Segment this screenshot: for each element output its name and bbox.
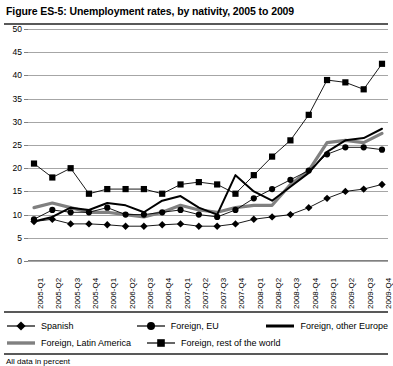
circle-marker-icon <box>361 144 367 150</box>
x-axis-tick-label: 2008-Q2 <box>275 278 283 309</box>
y-axis-tick-label: 10 <box>13 211 22 220</box>
legend-label: Foreign, rest of the world <box>181 338 281 348</box>
circle-marker-icon <box>269 186 275 192</box>
series-layer <box>28 29 388 261</box>
plot-canvas <box>28 29 388 261</box>
diamond-marker-icon <box>140 223 147 230</box>
legend-label: Spanish <box>41 321 74 331</box>
circle-marker-icon <box>214 214 220 220</box>
diamond-marker-icon <box>342 188 349 195</box>
x-axis-tick-label: 2007-Q1 <box>184 278 192 309</box>
diamond-marker-icon <box>177 220 184 227</box>
circle-marker-icon <box>379 147 385 153</box>
circle-marker-icon <box>49 207 55 213</box>
x-axis-tick-label: 2008-Q1 <box>257 278 265 309</box>
diamond-marker-icon <box>6 320 36 332</box>
diamond-marker-icon <box>232 220 239 227</box>
diamond-marker-icon <box>305 204 312 211</box>
circle-marker-icon <box>251 195 257 201</box>
y-axis-tick-label: 5 <box>17 234 22 243</box>
square-marker-icon <box>177 181 183 187</box>
circle-marker-icon <box>86 209 92 215</box>
y-axis-tick-label: 25 <box>13 141 22 150</box>
circle-marker-icon <box>104 205 110 211</box>
diamond-marker-icon <box>213 223 220 230</box>
square-marker-icon <box>104 186 110 192</box>
diamond-marker-icon <box>85 220 92 227</box>
x-axis-tick-label: 2009-Q2 <box>348 278 356 309</box>
legend-item-foreign-latin-america[interactable]: Foreign, Latin America <box>6 337 146 349</box>
y-axis-tick-label: 30 <box>13 118 22 127</box>
square-marker-icon <box>146 337 176 349</box>
legend-item-spanish[interactable]: Spanish <box>6 320 136 332</box>
circle-marker-icon <box>342 144 348 150</box>
circle-marker-icon <box>324 151 330 157</box>
x-axis: 2005-Q12005-Q22005-Q32005-Q42006-Q12006-… <box>4 261 388 311</box>
y-axis-tick-label: 50 <box>13 25 22 34</box>
square-marker-icon <box>86 191 92 197</box>
square-marker-icon <box>251 172 257 178</box>
square-marker-icon <box>306 112 312 118</box>
circle-marker-icon <box>68 209 74 215</box>
square-marker-icon <box>269 154 275 160</box>
page-title: Figure ES-5: Unemployment rates, by nati… <box>4 0 388 22</box>
legend-top-divider <box>4 311 388 313</box>
x-axis-tick-label: 2006-Q4 <box>165 278 173 309</box>
x-axis-tick-label: 2007-Q4 <box>238 278 246 309</box>
square-marker-icon <box>379 61 385 67</box>
circle-marker-icon <box>122 212 128 218</box>
legend-label: Foreign, EU <box>171 321 219 331</box>
diamond-marker-icon <box>195 223 202 230</box>
diamond-marker-icon <box>159 221 166 228</box>
series-foreign-rest-of-the-world <box>31 61 385 197</box>
legend-item-foreign-eu[interactable]: Foreign, EU <box>136 320 266 332</box>
figure-note: All data in percent <box>4 357 388 366</box>
x-axis-tick-label: 2006-Q1 <box>110 278 118 309</box>
circle-marker-icon <box>196 212 202 218</box>
y-axis-tick-label: 40 <box>13 71 22 80</box>
x-axis-tick-label: 2009-Q1 <box>330 278 338 309</box>
x-axis-tick-label: 2006-Q3 <box>147 278 155 309</box>
series-line <box>34 64 382 194</box>
square-marker-icon <box>361 86 367 92</box>
diamond-marker-icon <box>250 216 257 223</box>
x-axis-tick-label: 2006-Q2 <box>129 278 137 309</box>
title-divider <box>4 23 388 25</box>
square-marker-icon <box>159 191 165 197</box>
legend-bottom-divider <box>4 353 388 355</box>
y-axis: 05101520253035404550 <box>4 29 28 261</box>
square-marker-icon <box>68 165 74 171</box>
legend-item-foreign-rest-of-the-world[interactable]: Foreign, rest of the world <box>146 337 281 349</box>
legend-label: Foreign, other Europe <box>300 321 388 331</box>
legend-item-foreign-other-europe[interactable]: Foreign, other Europe <box>265 320 388 332</box>
square-marker-icon <box>49 174 55 180</box>
y-axis-tick-label: 35 <box>13 95 22 104</box>
x-axis-tick-label: 2008-Q3 <box>293 278 301 309</box>
x-axis-tick-label: 2005-Q3 <box>74 278 82 309</box>
square-marker-icon <box>31 160 37 166</box>
y-axis-tick-label: 15 <box>13 187 22 196</box>
x-axis-tick-label: 2009-Q4 <box>385 278 393 309</box>
series-line <box>34 133 382 217</box>
legend-label: Foreign, Latin America <box>41 338 131 348</box>
square-marker-icon <box>287 137 293 143</box>
square-marker-icon <box>232 191 238 197</box>
square-marker-icon <box>214 181 220 187</box>
x-axis-tick-label: 2007-Q3 <box>220 278 228 309</box>
square-marker-icon <box>141 186 147 192</box>
diamond-marker-icon <box>104 221 111 228</box>
x-axis-tick-label: 2005-Q4 <box>92 278 100 309</box>
legend-row: Foreign, Latin AmericaForeign, rest of t… <box>6 335 388 350</box>
diamond-marker-icon <box>287 211 294 218</box>
diamond-marker-icon <box>268 213 275 220</box>
diamond-marker-icon <box>67 220 74 227</box>
legend-row: SpanishForeign, EUForeign, other Europe <box>6 318 388 333</box>
x-axis-tick-label: 2005-Q2 <box>55 278 63 309</box>
y-axis-tick-label: 20 <box>13 164 22 173</box>
circle-marker-icon <box>306 167 312 173</box>
circle-marker-icon <box>136 320 166 332</box>
square-marker-icon <box>122 186 128 192</box>
thick-black-line-icon <box>265 320 295 332</box>
x-axis-tick-label: 2008-Q4 <box>312 278 320 309</box>
circle-marker-icon <box>141 212 147 218</box>
